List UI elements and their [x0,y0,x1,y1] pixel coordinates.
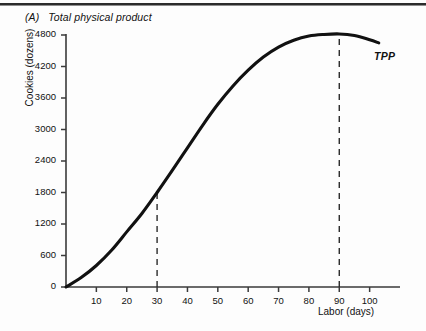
y-tick-label: 3600 [22,91,56,102]
y-tick-label: 1800 [22,186,56,197]
x-tick-label: 60 [233,295,263,306]
axes [66,34,400,287]
x-tick-label: 70 [264,295,294,306]
data-curve-tpp [66,34,379,287]
x-tick-label: 90 [324,295,354,306]
y-tick-label: 3000 [22,123,56,134]
y-tick-label: 4800 [22,28,56,39]
x-tick-label: 50 [203,295,233,306]
x-tick-label: 80 [294,295,324,306]
y-tick-label: 4200 [22,60,56,71]
figure-panel-a: (A)Total physical product Cookies (dozen… [0,0,426,331]
x-tick-label: 20 [112,295,142,306]
x-tick-label: 100 [355,295,385,306]
x-tick-label: 40 [172,295,202,306]
x-tick-label: 10 [81,295,111,306]
y-tick-label: 2400 [22,154,56,165]
y-tick-label: 600 [22,249,56,260]
y-tick-label: 0 [22,280,56,291]
plot-area [0,0,426,331]
y-tick-label: 1200 [22,217,56,228]
x-tick-label: 30 [142,295,172,306]
